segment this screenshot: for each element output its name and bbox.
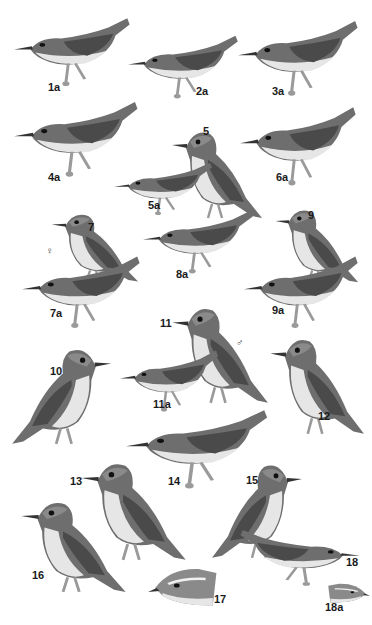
- bird-figure-16: [12, 490, 128, 594]
- figure-label: 16: [32, 570, 44, 581]
- bird-figure-6a: [240, 100, 358, 190]
- figure-label: 4a: [48, 172, 60, 183]
- female-symbol-icon: ♀: [46, 246, 54, 256]
- figure-label: 2a: [196, 86, 208, 97]
- figure-label: 5: [203, 126, 209, 137]
- figure-label: 7: [88, 222, 94, 233]
- figure-label: 3a: [272, 86, 284, 97]
- bird-figure-7a: [22, 250, 142, 332]
- figure-label: 1a: [48, 82, 60, 93]
- figure-label: 18: [346, 557, 358, 568]
- bird-figure-17: [148, 558, 220, 608]
- figure-label: 8a: [176, 269, 188, 280]
- bird-figure-12: [262, 326, 366, 436]
- figure-label: 12: [318, 411, 330, 422]
- figure-label: 15: [246, 475, 258, 486]
- bird-figure-1a: [14, 12, 132, 90]
- figure-label: 18a: [325, 602, 343, 613]
- bird-figure-8a: [143, 205, 255, 277]
- figure-label: 6a: [276, 172, 288, 183]
- bird-figure-10: [10, 336, 120, 446]
- figure-label: 11: [160, 318, 172, 329]
- figure-label: 17: [214, 594, 226, 605]
- bird-illustration-plate: 1a 2a 3a: [0, 0, 372, 625]
- male-symbol-icon: ♂: [236, 338, 244, 348]
- figure-label: 13: [70, 476, 82, 487]
- figure-label: 9a: [272, 305, 284, 316]
- bird-figure-3a: [238, 14, 360, 100]
- figure-label: 10: [50, 366, 62, 377]
- figure-label: 9: [308, 210, 314, 221]
- figure-label: 7a: [50, 308, 62, 319]
- bird-figure-2a: [128, 30, 240, 102]
